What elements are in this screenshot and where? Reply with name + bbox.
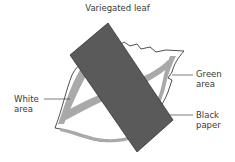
- black-paper-label: Black paper: [196, 110, 221, 130]
- green-area-label: Green area: [196, 69, 222, 89]
- white-area-label: White area: [14, 94, 39, 114]
